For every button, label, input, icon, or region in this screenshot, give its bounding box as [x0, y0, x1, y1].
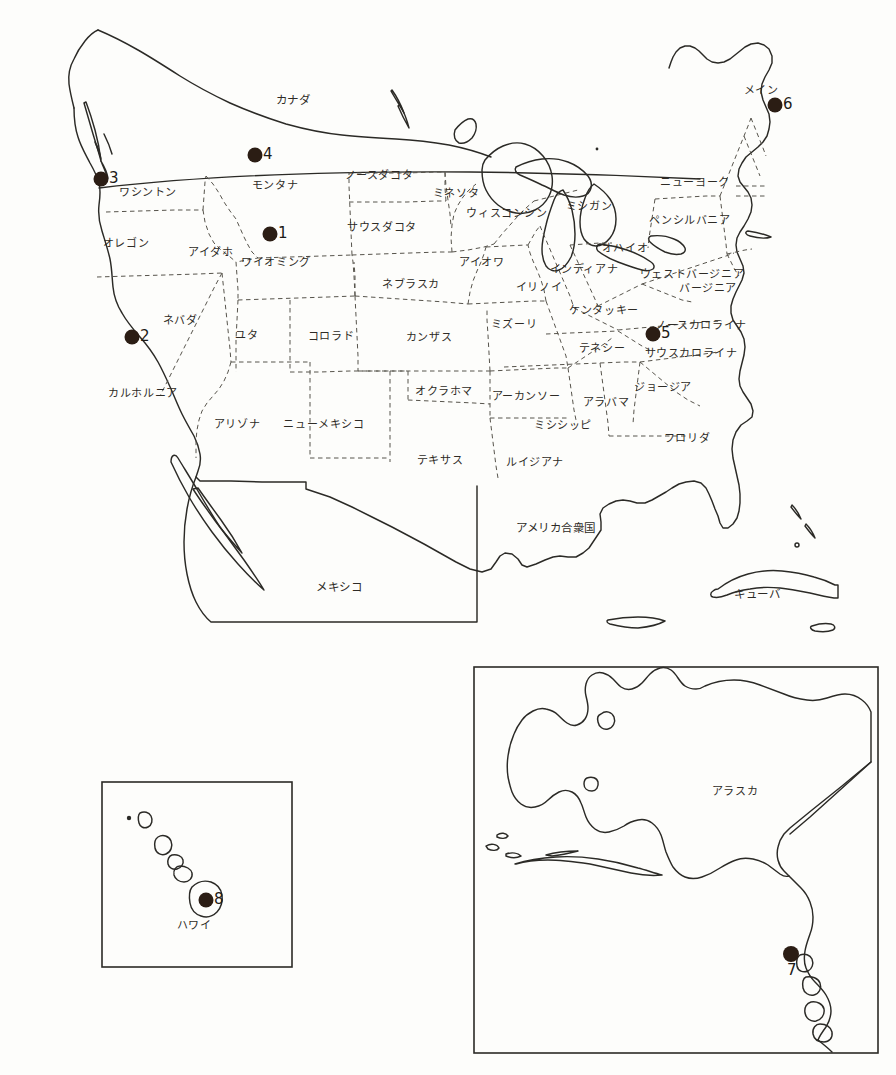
- main-map-markers: [94, 98, 783, 345]
- main-map-coastlines: [69, 30, 838, 632]
- marker-dot-5: [646, 327, 661, 342]
- hawaii-inset-vector: [102, 782, 292, 967]
- alaska-inset-vector: [474, 667, 878, 1053]
- marker-dot-1: [263, 227, 278, 242]
- reference-map-figure: カナダ アメリカ合衆国 メキシコ キューバ ワシントン オレゴン アイダホ モン…: [0, 0, 896, 1075]
- marker-dot-7: [783, 946, 799, 962]
- marker-dot-3: [94, 172, 109, 187]
- marker-dot-4: [248, 148, 263, 163]
- marker-dot-8: [199, 893, 214, 908]
- marker-dot-2: [125, 330, 140, 345]
- main-map-state-borders: [97, 118, 768, 478]
- figure-caption: [0, 1062, 896, 1075]
- map-vector-layer: [0, 0, 896, 1075]
- marker-dot-6: [768, 98, 783, 113]
